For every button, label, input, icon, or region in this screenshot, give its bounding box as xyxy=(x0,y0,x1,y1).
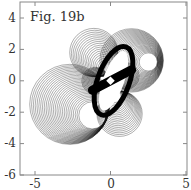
figure-label: Fig. 19b xyxy=(30,9,85,24)
y-tick-label: -4 xyxy=(4,136,16,150)
x-tick-label: -5 xyxy=(29,177,41,190)
y-tick-label: 0 xyxy=(8,73,16,87)
curve-families xyxy=(30,28,164,144)
y-tick-label: 2 xyxy=(8,42,16,56)
curve-ring xyxy=(134,50,158,74)
y-tick-label: -2 xyxy=(4,105,16,119)
x-tick-label: 0 xyxy=(107,177,115,190)
y-tick-label: -6 xyxy=(4,168,16,182)
figure-canvas: Fig. 19b -5 0 5 4 2 0 -2 -4 -6 xyxy=(0,0,191,190)
y-tick-label: 4 xyxy=(8,11,16,25)
x-tick-label: 5 xyxy=(182,177,190,190)
curve-ring xyxy=(139,53,157,71)
curve-ring xyxy=(138,52,158,72)
x-tick-labels: -5 0 5 xyxy=(29,177,190,190)
y-tick-labels: 4 2 0 -2 -4 -6 xyxy=(4,11,16,182)
